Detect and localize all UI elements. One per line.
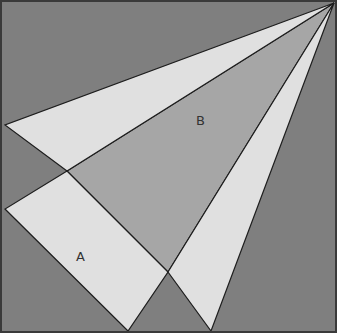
label-a: A <box>76 249 85 264</box>
geometry-diagram: A B <box>0 0 337 333</box>
label-b: B <box>196 113 205 128</box>
diagram-canvas: A B <box>0 0 337 333</box>
